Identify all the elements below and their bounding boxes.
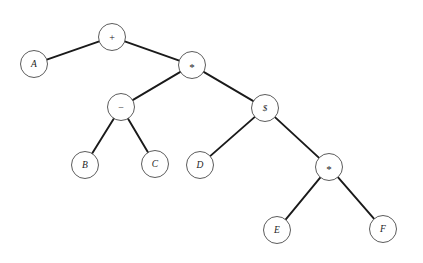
tree-node-plus[interactable]: +	[99, 24, 126, 51]
letter-f-label: F	[379, 224, 386, 234]
tree-edge	[92, 118, 114, 153]
tree-edges-group	[47, 41, 374, 219]
tree-node-a[interactable]: A	[21, 51, 48, 78]
plus-sign-label: +	[109, 32, 115, 43]
tree-edge	[204, 72, 254, 101]
tree-edge	[210, 117, 255, 156]
tree-edge	[133, 72, 181, 100]
letter-d-label: D	[196, 160, 204, 170]
tree-node-c[interactable]: C	[142, 151, 169, 178]
tree-node-dollar[interactable]: $	[252, 95, 279, 122]
letter-a-label: A	[30, 59, 37, 69]
expression-tree-diagram: +A*−$BCD*EF	[0, 0, 423, 263]
tree-node-f[interactable]: F	[370, 216, 397, 243]
tree-edge	[128, 119, 148, 153]
tree-node-asterisk[interactable]: *	[316, 154, 343, 181]
minus-sign-label: −	[118, 102, 124, 113]
tree-svg-canvas: +A*−$BCD*EF	[0, 0, 423, 263]
tree-node-e[interactable]: E	[264, 217, 291, 244]
tree-node-asterisk[interactable]: *	[179, 52, 206, 79]
letter-e-label: E	[273, 225, 280, 235]
tree-edge	[286, 177, 321, 219]
tree-edge	[47, 41, 99, 59]
tree-node-minus[interactable]: −	[108, 94, 135, 121]
letter-b-label: B	[82, 160, 88, 170]
asterisk-sign-label: *	[189, 61, 195, 73]
tree-node-d[interactable]: D	[187, 152, 214, 179]
tree-nodes-group: +A*−$BCD*EF	[21, 24, 397, 244]
tree-edge	[125, 41, 180, 60]
tree-edge	[275, 117, 319, 158]
letter-c-label: C	[152, 159, 159, 169]
dollar-sign-label: $	[263, 103, 268, 113]
tree-node-b[interactable]: B	[72, 152, 99, 179]
tree-edge	[338, 177, 374, 219]
asterisk-sign-label: *	[326, 163, 332, 175]
